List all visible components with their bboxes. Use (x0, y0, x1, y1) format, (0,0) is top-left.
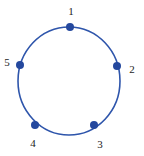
point-label-3: 3 (97, 138, 103, 150)
point-label-2: 2 (129, 63, 135, 75)
circle-outline (18, 27, 120, 135)
circle-diagram: 12345 (0, 0, 144, 156)
point-dot-3 (90, 121, 98, 129)
point-label-4: 4 (30, 137, 36, 149)
diagram-stage: 12345 (0, 0, 144, 156)
point-label-1: 1 (68, 5, 74, 17)
point-dot-2 (113, 62, 121, 70)
point-label-5: 5 (4, 56, 10, 68)
point-dot-5 (16, 61, 24, 69)
point-dot-1 (66, 23, 74, 31)
point-dot-4 (31, 121, 39, 129)
